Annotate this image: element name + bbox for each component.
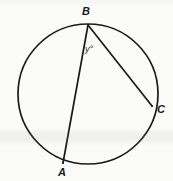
vertex-label-b: B [82, 6, 90, 17]
geometry-canvas [0, 0, 173, 181]
angle-label-y: y° [85, 45, 93, 54]
vertex-point-c [151, 105, 153, 107]
geometry-figure: B A C y° [0, 0, 173, 181]
vertex-label-c: C [157, 104, 165, 115]
vertex-point-b [87, 24, 89, 26]
chord-bc [88, 25, 152, 106]
vertex-label-a: A [58, 167, 66, 178]
vertex-point-a [62, 162, 64, 164]
